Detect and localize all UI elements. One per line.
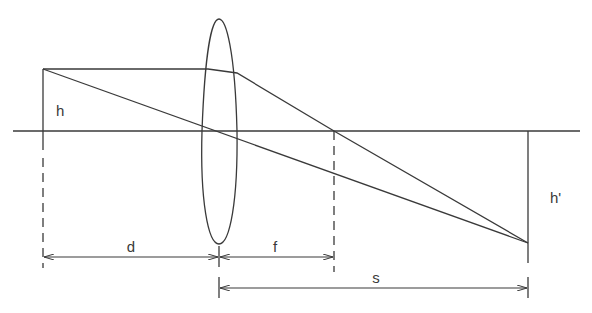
dimension-d-label: d xyxy=(127,238,135,255)
image-height-label: h' xyxy=(550,189,561,206)
dimension-s-label: s xyxy=(372,269,380,286)
chief-ray xyxy=(43,69,528,243)
lens-diagram: h h' d f s xyxy=(0,0,592,313)
object-height-label: h xyxy=(56,102,64,119)
dimension-f-label: f xyxy=(273,238,278,255)
